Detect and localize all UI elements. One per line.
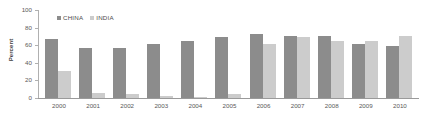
bar-india-2007[interactable] xyxy=(297,37,310,98)
bar-india-2010[interactable] xyxy=(399,36,412,98)
bar-group: 2000 xyxy=(42,10,76,98)
bar-china-2009[interactable] xyxy=(352,44,365,98)
bar-group: 2007 xyxy=(281,10,315,98)
plot-area: 020406080100 200020012002200320042005200… xyxy=(38,10,419,99)
x-axis-label: 2008 xyxy=(315,102,349,109)
bar-china-2003[interactable] xyxy=(147,44,160,98)
y-axis-tick-mark xyxy=(35,45,38,46)
bar-group: 2004 xyxy=(178,10,212,98)
x-axis-label: 2001 xyxy=(76,102,110,109)
bar-china-2001[interactable] xyxy=(79,48,92,98)
bar-india-2009[interactable] xyxy=(365,41,378,98)
x-axis-label: 2006 xyxy=(247,102,281,109)
bar-group: 2009 xyxy=(349,10,383,98)
bar-china-2004[interactable] xyxy=(181,41,194,98)
x-axis-label: 2009 xyxy=(349,102,383,109)
bar-india-2008[interactable] xyxy=(331,41,344,98)
bar-group: 2006 xyxy=(247,10,281,98)
y-axis-tick-label: 100 xyxy=(2,7,32,13)
y-axis-tick-label: 0 xyxy=(2,95,32,101)
y-axis-tick-mark xyxy=(35,10,38,11)
bar-india-2004[interactable] xyxy=(194,97,207,98)
bar-group: 2002 xyxy=(110,10,144,98)
y-axis-tick-label: 60 xyxy=(2,42,32,48)
bar-india-2005[interactable] xyxy=(228,94,241,98)
bar-china-2006[interactable] xyxy=(250,34,263,98)
y-axis-tick-label: 80 xyxy=(2,25,32,31)
bar-china-2010[interactable] xyxy=(386,46,399,98)
y-axis-tick-mark xyxy=(35,28,38,29)
bar-india-2006[interactable] xyxy=(263,44,276,98)
x-axis-label: 2005 xyxy=(212,102,246,109)
bar-china-2005[interactable] xyxy=(215,37,228,98)
bar-china-2007[interactable] xyxy=(284,36,297,98)
bar-india-2002[interactable] xyxy=(126,94,139,98)
bar-india-2000[interactable] xyxy=(58,71,71,98)
bar-group: 2001 xyxy=(76,10,110,98)
x-axis-label: 2010 xyxy=(383,102,417,109)
y-axis-tick-label: 40 xyxy=(2,60,32,66)
bar-group: 2005 xyxy=(212,10,246,98)
bar-india-2003[interactable] xyxy=(160,96,173,98)
y-axis-tick-mark xyxy=(35,63,38,64)
y-axis-tick-label: 20 xyxy=(2,77,32,83)
x-axis-label: 2000 xyxy=(42,102,76,109)
bar-group: 2003 xyxy=(144,10,178,98)
bar-chart: Percent CHINA INDIA 020406080100 2000200… xyxy=(0,0,423,123)
y-axis-tick-mark xyxy=(35,98,38,99)
x-axis-line xyxy=(38,98,419,99)
bar-india-2001[interactable] xyxy=(92,93,105,98)
x-axis-label: 2002 xyxy=(110,102,144,109)
x-axis-label: 2004 xyxy=(178,102,212,109)
y-axis-tick-mark xyxy=(35,80,38,81)
bar-china-2002[interactable] xyxy=(113,48,126,98)
bar-group: 2008 xyxy=(315,10,349,98)
bar-china-2000[interactable] xyxy=(45,39,58,98)
bar-group: 2010 xyxy=(383,10,417,98)
x-axis-label: 2003 xyxy=(144,102,178,109)
bar-china-2008[interactable] xyxy=(318,36,331,98)
y-axis-line xyxy=(38,10,39,99)
x-axis-label: 2007 xyxy=(281,102,315,109)
